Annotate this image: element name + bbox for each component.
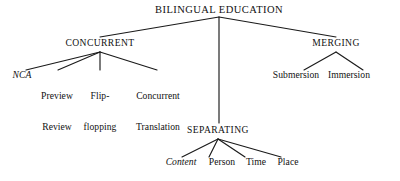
node-concurrent-translation-line1: Concurrent	[136, 91, 180, 101]
node-separating: SEPARATING	[187, 125, 249, 135]
node-flip-flopping: Flip- flopping	[84, 70, 117, 153]
node-preview-review-line1: Preview	[41, 91, 73, 101]
node-flip-flopping-line2: flopping	[84, 122, 117, 132]
edge-root-concurrent	[100, 17, 219, 37]
node-merging: MERGING	[312, 38, 360, 48]
edge-separating-content	[182, 139, 218, 157]
node-preview-review: Preview Review	[41, 70, 73, 153]
bilingual-education-tree-diagram: BILINGUAL EDUCATION CONCURRENT SEPARATIN…	[0, 0, 400, 181]
node-submersion: Submersion	[273, 70, 319, 80]
node-person: Person	[209, 157, 235, 167]
node-preview-review-line2: Review	[41, 122, 73, 132]
node-concurrent-translation: Concurrent Translation	[136, 70, 180, 153]
edge-merging-immersion	[336, 52, 363, 70]
node-content: Content	[166, 157, 197, 167]
node-flip-flopping-line1: Flip-	[84, 91, 117, 101]
edge-merging-submersion	[304, 52, 336, 70]
edge-separating-place	[218, 139, 281, 157]
node-place: Place	[277, 157, 298, 167]
edge-concurrent-concurrent-translation	[100, 52, 157, 70]
node-time: Time	[246, 157, 266, 167]
node-nca: NCA	[13, 70, 32, 80]
node-immersion: Immersion	[328, 70, 370, 80]
edge-separating-time	[218, 139, 245, 157]
node-root-bilingual-education: BILINGUAL EDUCATION	[155, 4, 283, 15]
node-concurrent-translation-line2: Translation	[136, 122, 180, 132]
node-concurrent: CONCURRENT	[65, 38, 134, 48]
edge-root-merging	[219, 17, 336, 37]
